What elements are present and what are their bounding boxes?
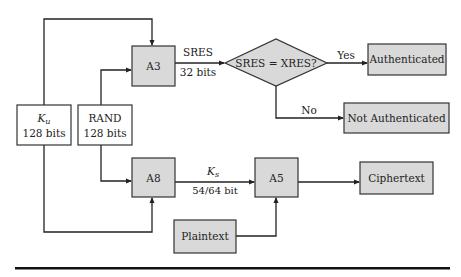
sres-bits: 32 bits [180, 66, 216, 78]
edge-rand-to-a8 [101, 145, 131, 181]
node-authenticated: Authenticated [368, 44, 446, 75]
ks-bits: 54/64 bit [192, 185, 238, 196]
rand-label: RAND [88, 112, 121, 124]
sres-label: SRES [183, 46, 213, 58]
a3-label: A3 [145, 60, 160, 72]
ks-label: Ks [206, 165, 219, 179]
node-ku: Ku 128 bits [17, 105, 71, 145]
not-authenticated-label: Not Authenticated [347, 112, 446, 124]
node-not-authenticated: Not Authenticated [344, 103, 449, 133]
no-label: No [301, 104, 317, 116]
node-rand: RAND 128 bits [78, 105, 132, 145]
rand-bits: 128 bits [83, 127, 126, 139]
node-plaintext: Plaintext [174, 220, 236, 253]
node-a5: A5 [255, 158, 298, 197]
node-ciphertext: Ciphertext [360, 162, 433, 194]
a5-label: A5 [268, 172, 283, 184]
yes-label: Yes [336, 49, 355, 61]
ku-bits: 128 bits [22, 127, 65, 139]
ciphertext-label: Ciphertext [368, 172, 425, 184]
node-decision: SRES = XRES? [225, 39, 327, 86]
authenticated-label: Authenticated [368, 53, 444, 65]
node-a3: A3 [132, 46, 175, 86]
plaintext-label: Plaintext [181, 230, 229, 242]
a8-label: A8 [145, 172, 160, 184]
node-a8: A8 [132, 158, 175, 197]
edge-plaintext-to-a5 [236, 198, 276, 236]
decision-label: SRES = XRES? [235, 57, 317, 69]
bottom-rule [15, 267, 450, 270]
flowchart-canvas: Ku 128 bits RAND 128 bits A3 SRES 32 bit… [0, 0, 461, 277]
edge-rand-to-a3 [101, 70, 131, 105]
